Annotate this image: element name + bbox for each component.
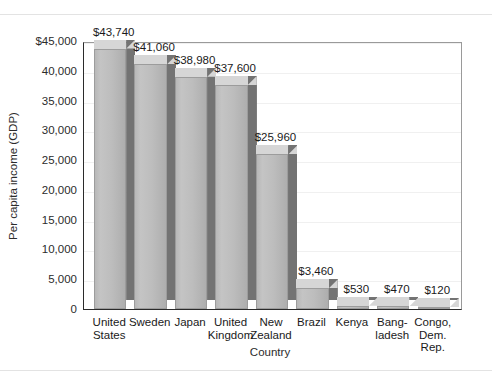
bar[interactable] bbox=[377, 306, 409, 309]
x-axis-title: Country bbox=[0, 346, 492, 358]
bar-front-face bbox=[175, 77, 207, 309]
bar[interactable] bbox=[175, 77, 207, 309]
bar[interactable] bbox=[134, 64, 166, 309]
page-rule-top bbox=[0, 14, 492, 15]
bar-value-label: $25,960 bbox=[252, 132, 299, 144]
x-axis-tick-line: Dem. bbox=[407, 329, 459, 342]
bar-value-label: $3,460 bbox=[292, 266, 339, 278]
bar-value-label: $120 bbox=[414, 285, 461, 297]
bar-top-face bbox=[418, 298, 450, 307]
bar-value-label: $41,060 bbox=[130, 42, 177, 54]
bar-top-face bbox=[337, 297, 369, 306]
bar-front-face bbox=[94, 49, 126, 309]
bar[interactable] bbox=[418, 307, 450, 309]
bar-top-face bbox=[296, 279, 328, 288]
bar-3d-body bbox=[418, 307, 450, 309]
bar[interactable] bbox=[215, 85, 247, 309]
bar-top-face bbox=[134, 55, 166, 64]
bar-front-face bbox=[134, 64, 166, 309]
bar-top-face bbox=[94, 40, 126, 49]
bar[interactable] bbox=[337, 306, 369, 309]
bar-front-face bbox=[337, 306, 369, 309]
bar-top-face bbox=[175, 68, 207, 77]
bar-top-face bbox=[377, 297, 409, 306]
bar[interactable] bbox=[296, 288, 328, 309]
y-axis-tick-label: $45,000 bbox=[0, 36, 77, 48]
bar-3d-body bbox=[256, 154, 288, 309]
x-axis-tick-line: Congo, bbox=[407, 316, 459, 329]
bar-3d-body bbox=[337, 306, 369, 309]
bar-front-face bbox=[256, 154, 288, 309]
bar-value-label: $37,600 bbox=[211, 63, 258, 75]
bar-front-face bbox=[215, 85, 247, 309]
bar-3d-body bbox=[175, 77, 207, 309]
bar[interactable] bbox=[256, 154, 288, 309]
plot-area bbox=[83, 42, 462, 310]
bar-3d-body bbox=[215, 85, 247, 309]
y-axis-title: Per capita income (GDP) bbox=[7, 76, 19, 276]
bar-top-face bbox=[215, 76, 247, 85]
bar-front-face bbox=[418, 307, 450, 309]
bar-3d-body bbox=[377, 306, 409, 309]
x-axis-tick-line: States bbox=[83, 329, 135, 342]
bar-front-face bbox=[377, 306, 409, 309]
bar-chart-figure: $45,00040,00035,00030,00025,00020,00015,… bbox=[0, 0, 492, 378]
bar-3d-body bbox=[296, 288, 328, 309]
bar-front-face bbox=[296, 288, 328, 309]
bar-value-label: $43,740 bbox=[90, 27, 137, 39]
bar-top-face bbox=[256, 145, 288, 154]
bar-3d-body bbox=[134, 64, 166, 309]
bar-3d-body bbox=[94, 49, 126, 309]
bar[interactable] bbox=[94, 49, 126, 309]
x-axis-tick-line: Zealand bbox=[245, 329, 297, 342]
page-rule-bottom bbox=[0, 370, 492, 371]
y-axis-tick-label: 0 bbox=[0, 304, 77, 316]
